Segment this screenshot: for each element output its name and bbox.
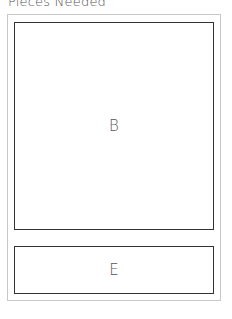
piece-label: E [109, 261, 118, 279]
piece-e[interactable]: E [14, 246, 214, 294]
piece-b[interactable]: B [14, 22, 214, 230]
piece-label: B [109, 117, 119, 135]
section-title: Pieces Needed [8, 0, 106, 9]
